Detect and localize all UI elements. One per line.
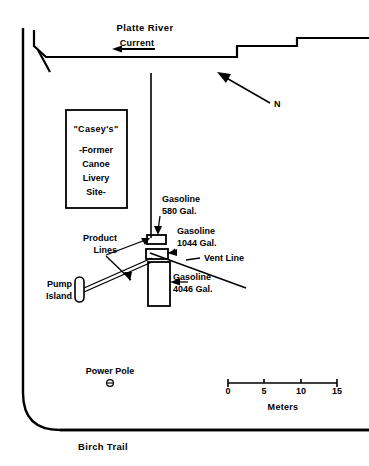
building-desc-line1: -Former [79,145,113,156]
scale-bar [228,379,337,387]
building-desc-line3: Livery [83,173,110,184]
tank-4046-label-line2: 4046 Gal. [173,284,213,295]
north-arrow-icon [217,72,270,103]
building-name-label: "Casey's" [74,124,119,135]
leader-line-vent [186,258,200,260]
tank-1044-label-line2: 1044 Gal. [177,238,217,249]
pump-island-label-line1: Pump [47,279,72,290]
product-lines-label-line1: Product [83,233,117,244]
current-label: Current [120,38,155,49]
tank-1044-shape [146,249,168,259]
river-name-label: Platte River [116,22,173,33]
product-line-lower [84,262,152,292]
tank-580-label-line2: 580 Gal. [162,206,197,217]
north-label: N [274,99,281,110]
building-desc-line4: Site- [86,187,106,198]
tank-1044-label-line1: Gasoline [177,226,215,237]
tank-580-shape [147,235,166,244]
building-desc-line2: Canoe [82,159,110,170]
scale-tick-0: 0 [225,386,230,397]
river-bank-spur [38,50,50,72]
leader-line-580 [154,216,162,235]
power-pole-icon [107,380,114,387]
birch-trail-label: Birch Trail [78,441,128,452]
river-bank-line [34,30,369,57]
scale-tick-15: 15 [332,386,342,397]
pump-island-label-line2: Island [46,291,72,302]
power-pole-label: Power Pole [86,366,135,377]
vent-line-label: Vent Line [204,253,244,264]
scale-tick-10: 10 [296,386,306,397]
product-line-upper [84,258,152,288]
tank-4046-label-line1: Gasoline [173,272,211,283]
pump-island-shape [75,277,84,302]
scale-units-label: Meters [268,402,299,413]
tank-580-label-line1: Gasoline [162,194,200,205]
scale-tick-5: 5 [261,386,266,397]
tank-4046-shape [148,262,170,306]
product-lines-label-line2: Lines [93,245,117,256]
